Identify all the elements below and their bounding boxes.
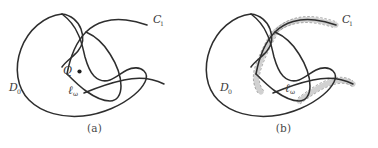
label-ell-omega: ℓ ω xyxy=(68,83,78,97)
figure-root: C 1 D 0 Q ℓ ω (a) xyxy=(0,0,378,148)
svg-text:ω: ω xyxy=(290,88,295,95)
svg-text:0: 0 xyxy=(17,88,21,95)
curve-c1 xyxy=(67,20,147,75)
figure-panel-a: C 1 D 0 Q ℓ ω (a) xyxy=(0,0,189,148)
label-curve-c1: C 1 xyxy=(342,13,353,27)
label-curve-c1: C 1 xyxy=(153,13,164,27)
svg-text:ω: ω xyxy=(73,90,78,97)
panel-a-caption: (a) xyxy=(0,122,189,134)
panel-b-caption: (b) xyxy=(189,122,378,134)
tail-curve xyxy=(84,78,164,93)
label-point-q: Q xyxy=(63,64,72,77)
point-q-marker xyxy=(77,69,81,73)
panel-b-drawing: C 1 D 0 ℓ ω xyxy=(189,0,378,126)
svg-text:1: 1 xyxy=(349,20,353,27)
panel-a-drawing: C 1 D 0 Q ℓ ω xyxy=(0,0,189,126)
figure-panel-b: C 1 D 0 ℓ ω (b) xyxy=(189,0,378,148)
label-domain-d0: D 0 xyxy=(219,81,232,95)
label-ell-omega: ℓ ω xyxy=(285,81,295,95)
svg-text:0: 0 xyxy=(228,88,232,95)
curve-ell-omega xyxy=(256,32,310,101)
svg-text:1: 1 xyxy=(160,20,164,27)
